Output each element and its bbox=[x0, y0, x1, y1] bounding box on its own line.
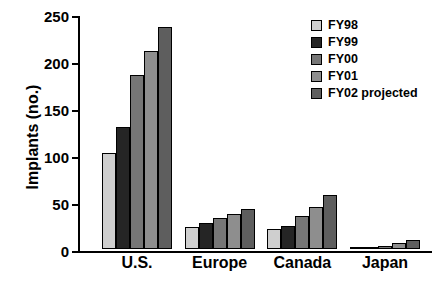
legend-swatch-icon bbox=[311, 88, 322, 99]
bar-group bbox=[185, 14, 255, 249]
bar bbox=[295, 216, 309, 249]
bar bbox=[267, 229, 281, 249]
y-axis-tick-label: 150 bbox=[44, 102, 69, 119]
bar-group-bars bbox=[102, 14, 172, 249]
bar bbox=[350, 247, 364, 250]
x-axis-line bbox=[78, 251, 432, 253]
y-axis-label: Implants (no.) bbox=[24, 42, 42, 232]
legend-item: FY99 bbox=[311, 34, 418, 51]
y-axis-tick bbox=[72, 63, 78, 65]
y-axis-tick-label: 100 bbox=[44, 149, 69, 166]
y-axis-tick bbox=[72, 204, 78, 206]
bar bbox=[185, 227, 199, 249]
legend-item: FY00 bbox=[311, 51, 418, 68]
bar bbox=[158, 27, 172, 249]
legend-swatch-icon bbox=[311, 71, 322, 82]
legend-item: FY98 bbox=[311, 17, 418, 34]
bar bbox=[406, 240, 420, 249]
y-axis-tick-label: 0 bbox=[61, 243, 69, 260]
bar bbox=[102, 153, 116, 249]
bar bbox=[364, 247, 378, 250]
bar-group-bars bbox=[185, 14, 255, 249]
bar bbox=[392, 243, 406, 249]
bar bbox=[213, 218, 227, 249]
y-axis-tick-label: 50 bbox=[52, 196, 69, 213]
legend-item-label: FY00 bbox=[328, 53, 358, 66]
bar-chart: Implants (no.) 050100150200250 U.S.Europ… bbox=[0, 0, 446, 299]
y-axis-tick bbox=[72, 110, 78, 112]
y-axis-tick-label: 250 bbox=[44, 8, 69, 25]
legend: FY98FY99FY00FY01FY02 projected bbox=[311, 17, 418, 102]
bar-group bbox=[102, 14, 172, 249]
legend-item-label: FY01 bbox=[328, 70, 358, 83]
y-axis-tick bbox=[72, 16, 78, 18]
legend-swatch-icon bbox=[311, 37, 322, 48]
y-axis-tick bbox=[72, 251, 78, 253]
legend-item: FY02 projected bbox=[311, 85, 418, 102]
bar bbox=[227, 214, 241, 249]
bar bbox=[309, 207, 323, 249]
legend-swatch-icon bbox=[311, 54, 322, 65]
bar bbox=[144, 51, 158, 249]
y-axis-tick-label: 200 bbox=[44, 55, 69, 72]
bar bbox=[116, 127, 130, 249]
x-axis-category-label: Japan bbox=[320, 254, 446, 272]
y-axis-line bbox=[78, 16, 80, 252]
bar bbox=[241, 209, 255, 249]
bar bbox=[130, 75, 144, 249]
bar bbox=[378, 246, 392, 249]
legend-item-label: FY02 projected bbox=[328, 87, 418, 100]
bar bbox=[281, 226, 295, 249]
bar bbox=[323, 195, 337, 249]
legend-item-label: FY98 bbox=[328, 19, 358, 32]
legend-swatch-icon bbox=[311, 20, 322, 31]
legend-item-label: FY99 bbox=[328, 36, 358, 49]
legend-item: FY01 bbox=[311, 68, 418, 85]
bar bbox=[199, 223, 213, 249]
y-axis-tick bbox=[72, 157, 78, 159]
